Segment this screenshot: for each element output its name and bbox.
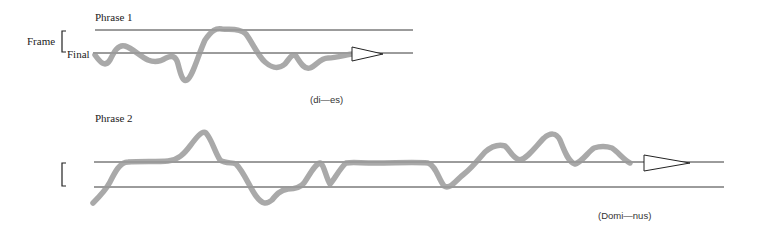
phrase1-title: Phrase 1 xyxy=(95,11,133,23)
frame-bracket xyxy=(62,31,66,52)
phrase1-syllables: (di—es) xyxy=(310,94,343,105)
final-label: Final xyxy=(67,48,90,60)
phrase2-arrow xyxy=(644,155,690,171)
phrase2-title: Phrase 2 xyxy=(95,112,133,124)
phrase2-syllables: (Domi—nus) xyxy=(598,210,651,221)
frame-label: Frame xyxy=(27,35,55,47)
phrase1-arrow xyxy=(352,47,383,61)
melodic-contour-diagram: Phrase 1 Frame Final (di—es) Phrase 2 (D… xyxy=(0,0,764,228)
phrase2-bracket xyxy=(62,163,66,186)
phrase2-contour xyxy=(93,132,630,203)
phrase1-contour xyxy=(95,29,352,81)
